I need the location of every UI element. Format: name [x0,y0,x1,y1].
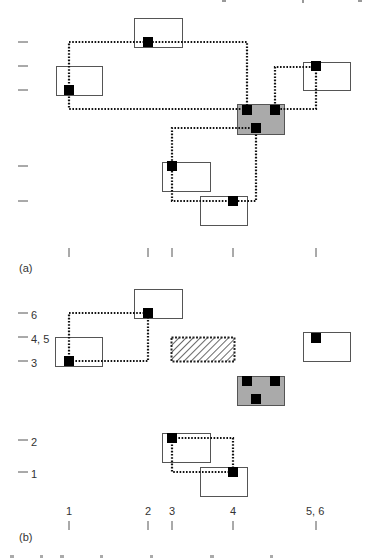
cropped-header-text [180,0,368,4]
pin-node [251,394,261,404]
x-tick-label: 5, 6 [306,506,324,517]
pin-node [311,61,321,71]
placement-diagram [0,0,368,558]
panel-b-box-right [304,333,351,362]
y-tick-label: 3 [31,358,37,369]
x-tick-label: 4 [230,506,236,517]
pin-node [167,161,177,171]
panel-a-box-right [304,63,351,91]
pin-node [167,433,177,443]
x-tick-label: 3 [169,506,175,517]
panel-a-box-bottom [201,197,248,226]
panel-label-a: (a) [19,262,32,274]
panel-b-box-bottom [201,468,248,497]
y-tick-label: 4, 5 [31,334,49,345]
panel-b-box-top [135,290,183,319]
pin-node [143,37,153,47]
y-tick-label: 1 [31,469,37,480]
y-tick-label: 2 [31,437,37,448]
pin-node [143,308,153,318]
pin-node [311,333,321,343]
pin-node [64,356,74,366]
pin-node [270,105,280,115]
pin-node [228,467,238,477]
pin-node [242,376,252,386]
y-tick-label: 6 [31,310,37,321]
panel-b-box-left [56,338,103,367]
panel-a-box-left [57,67,103,96]
pin-node [251,123,261,133]
pin-node [242,105,252,115]
cropped-caption-text [0,554,368,558]
panel-a-box-top [135,19,183,48]
x-tick-label: 1 [66,506,72,517]
pin-node [270,376,280,386]
panel-b-box-hatched [172,338,235,362]
x-tick-label: 2 [145,506,151,517]
pin-node [228,196,238,206]
panel-label-b: (b) [19,531,32,543]
pin-node [64,85,74,95]
